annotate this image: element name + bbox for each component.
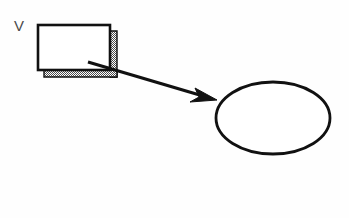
diagram-canvas: V Vector object: [0, 0, 349, 218]
source-box-face: [38, 25, 110, 70]
connector-arrow: [88, 62, 217, 102]
source-box-label: V: [14, 18, 24, 33]
target-ellipse-face: [216, 82, 330, 154]
arrowhead-icon: [190, 88, 217, 102]
target-object-caption: Vector object: [231, 168, 321, 218]
